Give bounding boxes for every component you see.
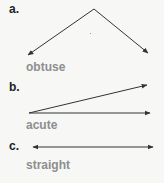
angle-diagrams xyxy=(0,0,164,183)
acute-angle xyxy=(29,85,150,113)
obtuse-angle xyxy=(28,9,148,55)
